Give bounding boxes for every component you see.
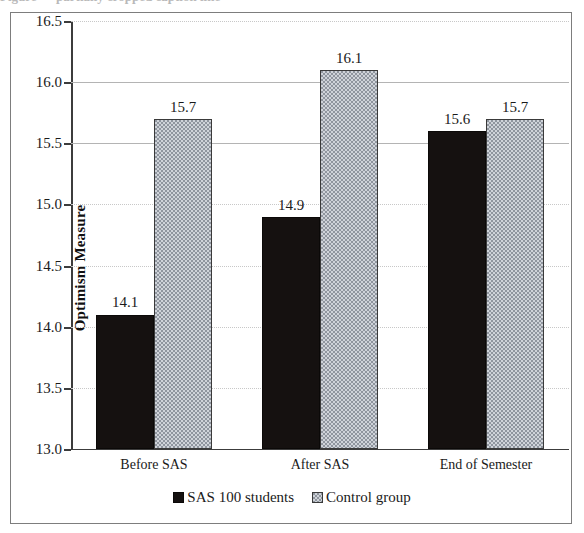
legend-item-label: Control group xyxy=(326,489,411,506)
bar-value-label: 16.1 xyxy=(336,51,362,66)
bar-control-group xyxy=(486,119,544,449)
y-axis-tick-label: 16.0 xyxy=(16,75,71,90)
bar-value-label: 15.7 xyxy=(502,100,528,115)
legend-item-label: SAS 100 students xyxy=(187,489,294,506)
bar-sas-100-students xyxy=(428,131,486,449)
y-axis-tick-label: 14.0 xyxy=(16,319,71,334)
y-axis-tick-label: 14.5 xyxy=(16,258,71,273)
legend-item: SAS 100 students xyxy=(173,489,294,506)
y-axis-tick-label: 16.5 xyxy=(16,14,71,29)
cropped-caption-ghost: Figure — partially cropped caption line xyxy=(0,0,584,10)
cropped-caption-text: Figure — partially cropped caption line xyxy=(0,0,220,5)
x-axis-category-label: Before SAS xyxy=(120,458,187,472)
bar-value-label: 14.1 xyxy=(112,295,138,310)
x-axis-category-label: After SAS xyxy=(291,458,350,472)
bar-value-label: 14.9 xyxy=(278,198,304,213)
y-axis-tick-label: 15.5 xyxy=(16,136,71,151)
legend-item: Control group xyxy=(312,489,411,506)
x-axis-category-label: End of Semester xyxy=(440,458,533,472)
bar-sas-100-students xyxy=(262,217,320,449)
bar-value-label: 15.6 xyxy=(444,112,470,127)
chart-legend: SAS 100 studentsControl group xyxy=(11,489,573,506)
bar-value-label: 15.7 xyxy=(170,100,196,115)
black-square-icon xyxy=(173,492,184,503)
y-axis-tick-label: 15.0 xyxy=(16,197,71,212)
bar-control-group xyxy=(154,119,212,449)
gray-checkered-square-icon xyxy=(312,492,323,503)
x-axis-line xyxy=(71,449,569,450)
bar-control-group xyxy=(320,70,378,449)
bar-sas-100-students xyxy=(96,315,154,450)
y-axis-tick-label: 13.0 xyxy=(16,442,71,457)
figure-frame: Optimism Measure 16.516.015.515.014.514.… xyxy=(10,12,572,524)
y-axis-tick-label: 13.5 xyxy=(16,380,71,395)
plot-area: 14.115.714.916.115.615.7 xyxy=(71,21,569,449)
